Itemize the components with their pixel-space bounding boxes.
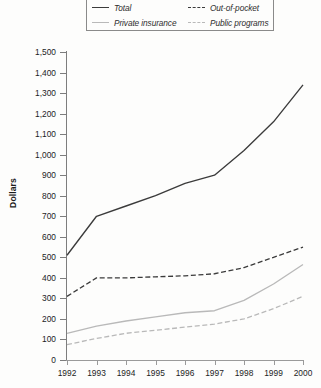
series-line-public-programs xyxy=(67,296,303,344)
chart-plot-lines xyxy=(0,0,321,388)
series-line-private-insurance xyxy=(67,265,303,334)
series-line-total xyxy=(67,85,303,255)
chart-figure: Total Out-of-pocket Private insurance Pu… xyxy=(0,0,321,388)
series-line-out-of-pocket xyxy=(67,247,303,296)
